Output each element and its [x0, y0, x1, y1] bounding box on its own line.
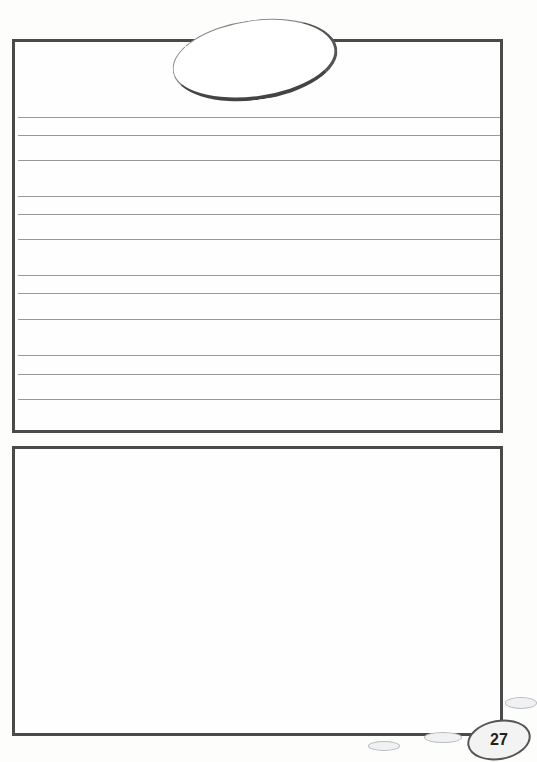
page-number: 27	[490, 731, 508, 749]
writing-line	[18, 239, 500, 240]
writing-line	[18, 135, 500, 136]
decorative-pebble	[368, 741, 400, 751]
writing-line	[18, 355, 500, 356]
writing-line	[18, 214, 500, 215]
writing-line	[18, 196, 500, 197]
decorative-pebble	[424, 732, 462, 743]
writing-line	[18, 293, 500, 294]
writing-line	[18, 374, 500, 375]
decorative-pebble	[505, 697, 537, 709]
writing-line	[18, 117, 500, 118]
writing-line	[18, 319, 500, 320]
writing-line	[18, 399, 500, 400]
writing-line	[18, 275, 500, 276]
drawing-panel	[12, 446, 503, 736]
writing-line	[18, 160, 500, 161]
